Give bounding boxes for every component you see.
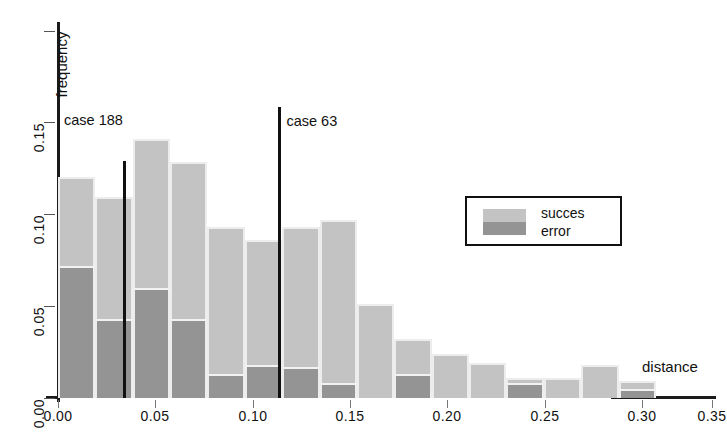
histogram-bar [357, 304, 394, 398]
legend-swatch-succes [483, 209, 526, 222]
x-tick-6 [642, 400, 643, 408]
histogram-bar [245, 240, 282, 398]
histogram-bar [469, 363, 506, 398]
histogram-bar [506, 378, 543, 398]
bar-segment-succes [469, 363, 506, 398]
bar-segment-succes [432, 354, 469, 398]
y-tick-label-2: 0.10 [31, 215, 47, 275]
histogram-bar [207, 227, 244, 398]
bar-segment-succes [133, 139, 170, 288]
histogram-bar [544, 378, 581, 398]
x-tick-2 [253, 400, 254, 408]
x-tick-label-1: 0.05 [125, 408, 185, 424]
bar-segment-succes [544, 378, 581, 398]
bar-segment-error [58, 266, 95, 398]
bar-segment-error [282, 367, 319, 398]
bar-segment-error [619, 389, 656, 398]
legend-label-error: error [541, 223, 571, 239]
bar-segment-succes [394, 339, 431, 374]
x-tick-label-7: 0.35 [682, 408, 727, 424]
bar-segment-error [394, 374, 431, 398]
bar-segment-error [170, 319, 207, 398]
marker-label-case-188: case 188 [64, 112, 123, 128]
legend-swatch [483, 209, 526, 235]
histogram-bar [394, 339, 431, 398]
bar-segment-error [245, 365, 282, 398]
x-tick-0 [58, 400, 59, 408]
histogram-bar [282, 227, 319, 398]
histogram-bar [619, 381, 656, 398]
bar-segment-succes [282, 227, 319, 367]
x-tick-label-6: 0.30 [612, 408, 672, 424]
bar-segment-succes [170, 162, 207, 318]
bar-segment-error [506, 383, 543, 398]
histogram-bar [170, 162, 207, 398]
x-tick-label-2: 0.10 [223, 408, 283, 424]
x-tick-label-5: 0.25 [515, 408, 575, 424]
x-tick-4 [447, 400, 448, 408]
bar-segment-succes [207, 227, 244, 374]
histogram-bar [133, 139, 170, 398]
bar-segment-succes [357, 304, 394, 398]
legend-label-succes: succes [541, 205, 585, 221]
bar-segment-succes [95, 197, 132, 318]
histogram-chart: 0.00 0.05 0.10 0.15 0.00 0.05 0.10 0.15 … [0, 0, 727, 444]
x-tick-3 [350, 400, 351, 408]
histogram-bar [58, 177, 95, 398]
bar-segment-error [133, 288, 170, 398]
histogram-bar [95, 197, 132, 398]
bar-segment-succes [581, 365, 618, 398]
y-tick-label-3: 0.15 [31, 123, 47, 183]
bar-segment-error [207, 374, 244, 398]
histogram-bar [432, 354, 469, 398]
x-tick-7 [712, 400, 713, 408]
legend-swatch-error [483, 222, 526, 235]
legend-box: succes error [465, 196, 622, 246]
marker-line-case-188 [123, 161, 126, 398]
x-tick-label-3: 0.15 [320, 408, 380, 424]
histogram-bar [581, 365, 618, 398]
x-tick-label-0: 0.00 [28, 408, 88, 424]
y-tick-label-1: 0.05 [31, 307, 47, 367]
histogram-bar [320, 220, 357, 398]
x-tick-label-4: 0.20 [417, 408, 477, 424]
bar-segment-succes [58, 177, 95, 265]
bar-segment-succes [619, 381, 656, 388]
marker-label-case-63: case 63 [286, 113, 337, 129]
bar-segment-succes [320, 220, 357, 384]
bar-segment-error [95, 319, 132, 398]
x-tick-1 [155, 400, 156, 408]
x-tick-5 [545, 400, 546, 408]
y-axis-title: frequency [53, 0, 70, 130]
bar-segment-succes [245, 240, 282, 365]
bar-segment-error [320, 383, 357, 398]
x-axis-title: distance [642, 358, 698, 375]
marker-line-case-63 [278, 107, 281, 398]
